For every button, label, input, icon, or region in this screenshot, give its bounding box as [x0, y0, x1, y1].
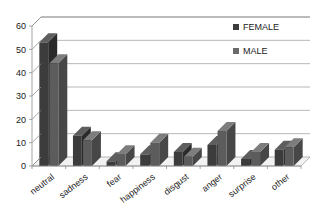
- x-tick-label-happiness: happiness: [118, 171, 157, 204]
- bar-front-face: [117, 154, 126, 166]
- x-tick-label-fear: fear: [105, 172, 123, 189]
- bar-front-face: [73, 136, 82, 166]
- bar-front-face: [207, 145, 216, 166]
- legend-label-female: FEMALE: [243, 22, 279, 32]
- y-tick-label: 30: [16, 91, 26, 101]
- bar-front-face: [39, 42, 48, 166]
- bar-front-face: [49, 63, 58, 166]
- y-tick-label: 60: [16, 21, 26, 31]
- x-tick-label-disgust: disgust: [162, 171, 191, 197]
- y-tick-label: 20: [16, 115, 26, 125]
- y-tick-label: 50: [16, 45, 26, 55]
- y-tick-label: 0: [21, 161, 26, 171]
- y-tick-connector: [32, 17, 41, 26]
- x-tick-label-neutral: neutral: [28, 172, 56, 197]
- legend-label-male: MALE: [243, 46, 268, 56]
- chart-container: 0102030405060 neutralsadnessfearhappines…: [0, 0, 317, 205]
- bar-front-face: [251, 152, 260, 166]
- x-tick-label-other: other: [269, 172, 291, 193]
- y-tick-label: 10: [16, 138, 26, 148]
- x-axis-labels: neutralsadnessfearhappinessdisgustangers…: [28, 171, 291, 204]
- bar-front-face: [83, 140, 92, 166]
- bar-front-face: [285, 147, 294, 166]
- y-axis-ticks: 0102030405060: [16, 17, 41, 171]
- bar-front-face: [218, 131, 227, 166]
- bar-side-face: [58, 54, 67, 166]
- bar-front-face: [174, 152, 183, 166]
- bar-neutral-male: [49, 54, 67, 166]
- bar-front-face: [150, 143, 159, 166]
- x-tick-label-surprise: surprise: [226, 172, 257, 200]
- x-axis-ticks: [32, 166, 301, 169]
- legend-swatch-male: [233, 48, 239, 54]
- legend-swatch-female: [233, 24, 239, 30]
- x-tick-label-anger: anger: [200, 172, 224, 194]
- bar-front-face: [140, 154, 149, 166]
- bar-chart: 0102030405060 neutralsadnessfearhappines…: [0, 0, 317, 205]
- y-tick-label: 40: [16, 68, 26, 78]
- bar-anger-male: [218, 122, 236, 166]
- x-tick-label-sadness: sadness: [57, 171, 90, 200]
- bar-front-face: [107, 161, 116, 166]
- bar-front-face: [275, 150, 284, 166]
- bar-front-face: [241, 159, 250, 166]
- bar-front-face: [184, 157, 193, 166]
